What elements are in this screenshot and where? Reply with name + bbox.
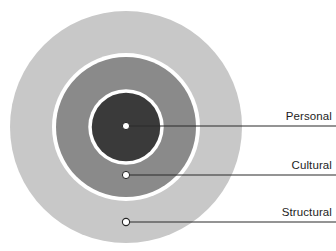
callout-label-structural: Structural (282, 207, 332, 219)
callout-label-cultural: Cultural (292, 160, 332, 172)
marker-dot-personal (122, 122, 129, 129)
diagram-canvas: Personal Cultural Structural (0, 0, 336, 251)
marker-dot-cultural (122, 171, 129, 178)
callout-label-personal: Personal (286, 111, 332, 123)
marker-dot-structural (122, 218, 129, 225)
